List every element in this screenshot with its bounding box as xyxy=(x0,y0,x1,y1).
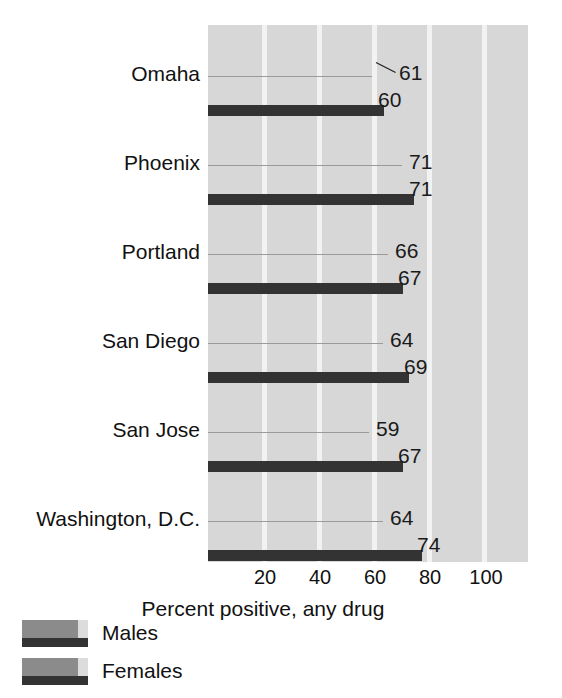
swatch-face xyxy=(22,620,78,638)
chart-figure: Omaha Phoenix Portland San Diego San Jos… xyxy=(0,0,562,698)
bar-females-washington-dc[interactable] xyxy=(208,522,410,550)
bar-males-portland[interactable] xyxy=(208,221,388,254)
category-label-omaha: Omaha xyxy=(0,63,200,85)
value-label-san-diego-males: 64 xyxy=(390,329,413,350)
category-label-san-diego: San Diego xyxy=(0,330,200,352)
legend-label-males: Males xyxy=(102,622,158,644)
legend-swatch-males xyxy=(22,620,88,648)
swatch-bottom xyxy=(22,638,78,647)
bar-shadow xyxy=(208,194,402,205)
value-label-washington-dc-males: 64 xyxy=(390,507,413,528)
bar-group-phoenix xyxy=(208,132,528,204)
plot-area xyxy=(208,25,528,562)
bar-males-omaha[interactable] xyxy=(208,43,375,76)
legend: Males Females xyxy=(22,618,282,694)
legend-label-females: Females xyxy=(102,660,183,682)
x-axis-title: Percent positive, any drug xyxy=(142,598,385,620)
bar-females-san-jose[interactable] xyxy=(208,433,391,461)
value-label-omaha-males: 61 xyxy=(399,62,422,83)
value-label-washington-dc-females: 74 xyxy=(417,534,440,555)
value-label-omaha-females: 60 xyxy=(378,89,401,110)
bar-group-omaha xyxy=(208,43,528,115)
bar-shadow xyxy=(208,461,391,472)
bar-shadow xyxy=(208,283,391,294)
bar-shadow xyxy=(208,550,410,561)
value-label-portland-females: 67 xyxy=(398,267,421,288)
swatch-bottom-skew xyxy=(78,638,88,647)
bar-females-san-diego[interactable] xyxy=(208,344,397,372)
x-axis-title-wrapper: Percent positive, any drug xyxy=(0,598,562,620)
value-label-portland-males: 66 xyxy=(395,240,418,261)
category-label-san-jose: San Jose xyxy=(0,419,200,441)
bar-females-phoenix[interactable] xyxy=(208,166,402,194)
swatch-side xyxy=(78,658,88,676)
bar-group-portland xyxy=(208,221,528,293)
value-label-san-jose-females: 67 xyxy=(398,445,421,466)
bar-shadow xyxy=(208,105,372,116)
bar-males-phoenix[interactable] xyxy=(208,132,402,165)
xtick-label-100: 100 xyxy=(469,567,502,587)
value-label-phoenix-females: 71 xyxy=(409,178,432,199)
category-label-phoenix: Phoenix xyxy=(0,152,200,174)
xtick-label-40: 40 xyxy=(309,567,331,587)
bar-group-washington-dc xyxy=(208,488,528,560)
bar-shadow xyxy=(208,372,397,383)
value-label-phoenix-males: 71 xyxy=(409,151,432,172)
swatch-bottom xyxy=(22,676,78,685)
bar-group-san-diego xyxy=(208,310,528,382)
legend-item-males[interactable]: Males xyxy=(22,618,282,656)
swatch-face xyxy=(22,658,78,676)
swatch-side xyxy=(78,620,88,638)
value-label-san-jose-males: 59 xyxy=(376,418,399,439)
bar-females-omaha[interactable] xyxy=(208,77,372,105)
legend-item-females[interactable]: Females xyxy=(22,656,282,694)
value-label-san-diego-females: 69 xyxy=(404,356,427,377)
category-label-washington-dc: Washington, D.C. xyxy=(0,508,200,530)
swatch-bottom-skew xyxy=(78,676,88,685)
bar-males-san-diego[interactable] xyxy=(208,310,383,343)
bar-females-portland[interactable] xyxy=(208,255,391,283)
xtick-label-60: 60 xyxy=(364,567,386,587)
bar-males-washington-dc[interactable] xyxy=(208,488,383,521)
legend-swatch-females xyxy=(22,658,88,686)
category-label-portland: Portland xyxy=(0,241,200,263)
bar-group-san-jose xyxy=(208,399,528,471)
xtick-label-80: 80 xyxy=(419,567,441,587)
bar-males-san-jose[interactable] xyxy=(208,399,369,432)
xtick-label-20: 20 xyxy=(254,567,276,587)
